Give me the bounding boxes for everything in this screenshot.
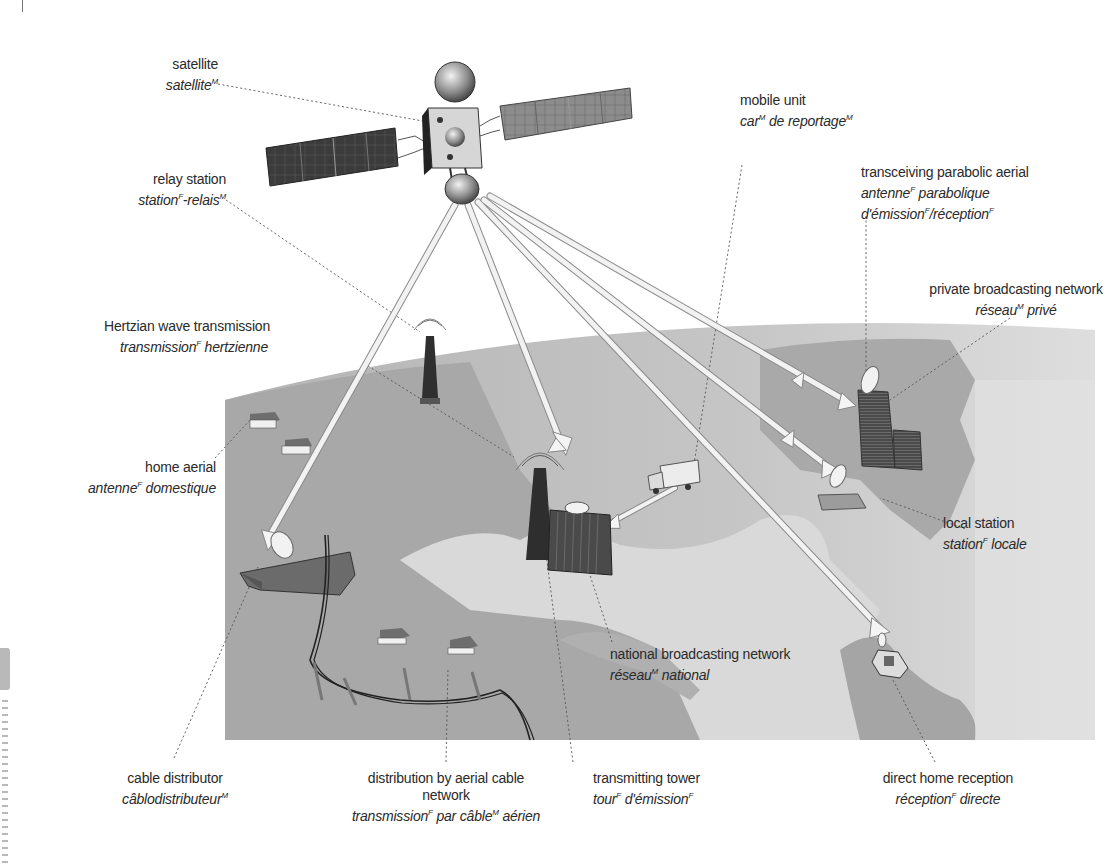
label-cable-distributor: cable distributor câblodistributeurM [90, 770, 260, 808]
illustration [0, 0, 1111, 864]
label-hertzian-wave-transmission: Hertzian wave transmission transmissionF… [40, 318, 270, 356]
label-direct-home-reception: direct home reception réceptionF directe [858, 770, 1038, 808]
label-distribution-by-aerial-cable-network: distribution by aerial cable network tra… [316, 770, 576, 825]
telecommunication-diagram: satellite satelliteM relay station stati… [0, 0, 1111, 864]
label-transmitting-tower: transmitting tower tourF d'émissionF [593, 770, 773, 808]
label-national-broadcasting-network: national broadcasting network réseauM na… [610, 646, 870, 684]
label-relay-station: relay station stationF-relaisM [80, 171, 226, 209]
label-private-broadcasting-network: private broadcasting network réseauM pri… [906, 281, 1111, 319]
label-local-station: local station stationF locale [943, 515, 1103, 553]
label-mobile-unit: mobile unit carM de reportageM [740, 92, 940, 130]
satellite [266, 62, 632, 204]
label-home-aerial: home aerial antenneF domestique [60, 459, 216, 497]
label-satellite: satellite satelliteM [100, 56, 218, 94]
label-transceiving-parabolic-aerial: transceiving parabolic aerial antenneF p… [861, 164, 1101, 223]
